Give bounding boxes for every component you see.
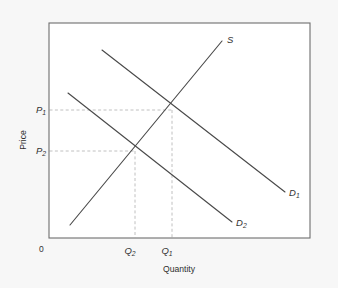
origin-label: 0 (39, 244, 44, 254)
plot-area-background (49, 23, 310, 238)
quantity-1-label: Q1 (161, 245, 172, 257)
x-axis-title: Quantity (163, 264, 196, 274)
price-1-label: P1 (36, 104, 46, 116)
supply-demand-chart: S D1 D2 P1 P2 Q2 Q1 0 Quantity Price (0, 0, 338, 288)
price-2-label: P2 (36, 145, 46, 157)
supply-curve-label: S (227, 34, 234, 45)
y-axis-title: Price (18, 130, 28, 150)
quantity-2-label: Q2 (124, 245, 135, 257)
figure-root: S D1 D2 P1 P2 Q2 Q1 0 Quantity Price (0, 0, 338, 288)
